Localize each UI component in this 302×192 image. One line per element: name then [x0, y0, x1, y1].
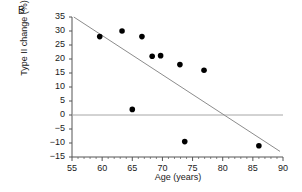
data-point-group — [97, 28, 262, 148]
x-tick-label: 90 — [271, 163, 295, 173]
data-point — [158, 53, 164, 59]
data-point — [97, 34, 103, 40]
x-axis-ticks — [72, 157, 283, 161]
x-tick-label: 70 — [150, 163, 174, 173]
y-tick-label: −5 — [39, 123, 65, 133]
data-point — [149, 53, 155, 59]
x-tick-label: 85 — [241, 163, 265, 173]
x-tick-label: 65 — [120, 163, 144, 173]
data-point — [129, 107, 135, 113]
y-tick-label: 10 — [39, 81, 65, 91]
data-point — [201, 67, 207, 73]
y-tick-label: −10 — [39, 137, 65, 147]
x-tick-label: 60 — [90, 163, 114, 173]
data-point — [182, 139, 188, 145]
figure-panel-b: B Type II change (%) Age (years) −15−10−… — [0, 0, 302, 192]
x-tick-label: 75 — [181, 163, 205, 173]
regression-line — [74, 17, 280, 151]
y-tick-label: −15 — [39, 151, 65, 161]
data-point — [256, 143, 262, 149]
y-tick-label: 5 — [39, 95, 65, 105]
data-point — [139, 34, 145, 40]
y-tick-label: 0 — [39, 109, 65, 119]
y-tick-label: 15 — [39, 67, 65, 77]
y-tick-label: 25 — [39, 39, 65, 49]
y-tick-label: 30 — [39, 25, 65, 35]
y-tick-label: 35 — [39, 11, 65, 21]
x-tick-label: 55 — [60, 163, 84, 173]
data-point — [119, 28, 125, 34]
axis-lines — [72, 17, 283, 157]
x-tick-label: 80 — [211, 163, 235, 173]
y-tick-label: 20 — [39, 53, 65, 63]
data-point — [177, 62, 183, 68]
